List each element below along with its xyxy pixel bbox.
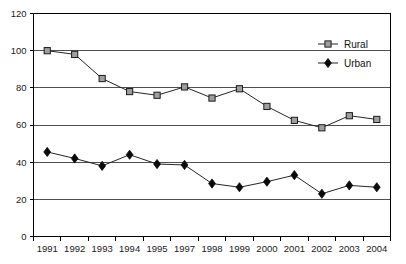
x-axis-tick-label: 2003	[339, 243, 360, 254]
data-point-marker	[236, 183, 243, 192]
x-axis-tick-label: 1999	[229, 243, 250, 254]
x-axis-tick-label: 1991	[37, 243, 58, 254]
data-point-marker	[126, 150, 133, 159]
data-point-marker	[374, 116, 380, 122]
series-markers-urban	[44, 147, 380, 198]
x-axis-tick-label: 1992	[64, 243, 85, 254]
data-point-marker	[209, 95, 215, 101]
y-axis-tick-label: 80	[16, 82, 27, 93]
data-point-marker	[71, 154, 78, 163]
data-point-marker	[319, 125, 325, 131]
x-axis-tick-label: 1997	[174, 243, 195, 254]
data-point-marker	[72, 51, 78, 57]
data-point-marker	[318, 189, 325, 198]
line-chart: 0204060801001201991199219931994199519971…	[0, 0, 406, 264]
legend-label: Urban	[344, 58, 371, 69]
data-point-marker	[291, 117, 297, 123]
data-point-marker	[236, 86, 242, 92]
x-axis-tick-label: 1995	[147, 243, 168, 254]
data-point-marker	[264, 177, 271, 186]
data-point-marker	[181, 84, 187, 90]
x-axis-tick-label: 2001	[284, 243, 305, 254]
y-axis-tick-label: 60	[16, 119, 27, 130]
data-point-marker	[154, 159, 161, 168]
y-axis-tick-label: 120	[11, 8, 27, 19]
data-point-marker	[346, 181, 353, 190]
data-point-marker	[209, 179, 216, 188]
y-axis-tick-label: 20	[16, 194, 27, 205]
data-point-marker	[325, 58, 332, 67]
data-point-marker	[325, 41, 331, 47]
x-axis-tick-label: 2004	[366, 243, 387, 254]
data-point-marker	[44, 147, 51, 156]
data-point-marker	[127, 88, 133, 94]
data-point-marker	[154, 92, 160, 98]
y-axis-tick-label: 40	[16, 157, 27, 168]
y-axis-tick-label: 100	[11, 45, 27, 56]
y-axis-tick-label: 0	[21, 231, 26, 242]
x-axis-tick-label: 2000	[256, 243, 277, 254]
data-point-marker	[99, 75, 105, 81]
x-axis-tick-label: 2002	[311, 243, 332, 254]
x-axis-tick-label: 1994	[119, 243, 140, 254]
x-axis-tick-label: 1993	[92, 243, 113, 254]
chart-container: 0204060801001201991199219931994199519971…	[0, 0, 406, 264]
legend-item-rural[interactable]: Rural	[318, 39, 368, 50]
data-point-marker	[373, 183, 380, 192]
data-point-marker	[44, 48, 50, 54]
data-point-marker	[264, 103, 270, 109]
data-point-marker	[99, 161, 106, 170]
data-point-marker	[346, 113, 352, 119]
data-point-marker	[291, 171, 298, 180]
legend-label: Rural	[344, 39, 368, 50]
legend-item-urban[interactable]: Urban	[318, 58, 371, 69]
x-axis-tick-label: 1998	[201, 243, 222, 254]
